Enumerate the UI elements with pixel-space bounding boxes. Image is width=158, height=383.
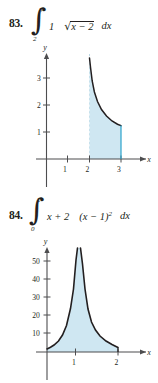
exercise-83-statement: 83. ∫ 3 2 1 √ x − 2 dx <box>0 0 158 46</box>
integral-upper-limit: 2 <box>37 196 41 204</box>
differential-dx: dx <box>102 20 112 31</box>
differential-dx: dx <box>120 210 130 221</box>
integrand-fraction: x + 2 (x − 1)2 <box>44 206 115 224</box>
y-tick-label-20: 20 <box>32 311 40 320</box>
y-axis-label-83: y <box>42 44 47 52</box>
integral-sign-icon: ∫ 2 0 <box>29 198 42 232</box>
exercise-84-integral-expression: ∫ 2 0 x + 2 (x − 1)2 dx <box>29 198 130 232</box>
y-axis-label-84: y <box>43 237 48 246</box>
integrand-fraction: 1 √ x − 2 <box>46 16 97 34</box>
x-axis-arrow-84 <box>140 349 146 354</box>
y-axis-arrow-84 <box>44 247 49 253</box>
graph-84-svg: 1 2 10 20 30 40 50 x y <box>0 234 158 383</box>
radicand: x − 2 <box>71 21 93 32</box>
fraction-numerator: x + 2 <box>44 211 72 222</box>
y-tick-label-1: 1 <box>37 128 41 137</box>
exercise-83: 83. ∫ 3 2 1 √ x − 2 dx <box>0 0 158 192</box>
square-root-expression: √ x − 2 <box>64 20 93 33</box>
exercise-84: 84. ∫ 2 0 x + 2 (x − 1)2 dx <box>0 192 158 383</box>
y-tick-label-3: 3 <box>37 74 41 83</box>
exercise-83-graph: 1 2 3 1 2 3 x y <box>0 44 158 192</box>
exercise-84-statement: 84. ∫ 2 0 x + 2 (x − 1)2 dx <box>0 192 158 238</box>
y-tick-label-30: 30 <box>32 293 40 302</box>
fraction-denominator: √ x − 2 <box>61 21 96 32</box>
x-tick-label-2: 2 <box>115 358 119 367</box>
y-tick-label-50: 50 <box>32 257 40 266</box>
x-tick-label-2: 2 <box>86 165 90 174</box>
x-tick-label-1: 1 <box>72 358 76 367</box>
fraction-numerator: 1 <box>46 21 57 32</box>
denominator-exponent: 2 <box>109 210 113 218</box>
y-axis-arrow-83 <box>44 53 49 59</box>
y-tick-label-40: 40 <box>32 275 40 284</box>
exercise-84-graph: 1 2 10 20 30 40 50 x y <box>0 234 158 383</box>
fraction-denominator: (x − 1)2 <box>76 211 115 222</box>
radical-vinculum <box>70 21 93 22</box>
integral-upper-limit: 3 <box>39 6 43 14</box>
x-axis-label-83: x <box>146 155 151 164</box>
y-tick-label-10: 10 <box>32 329 40 338</box>
exercise-83-number: 83. <box>9 17 23 29</box>
integral-lower-limit: 2 <box>33 35 37 43</box>
exercise-83-integral-expression: ∫ 3 2 1 √ x − 2 dx <box>31 8 111 42</box>
integral-sign-icon: ∫ 3 2 <box>31 8 44 42</box>
exercise-84-number: 84. <box>9 209 23 221</box>
y-tick-label-2: 2 <box>37 101 41 110</box>
graph-83-svg: 1 2 3 1 2 3 x y <box>0 44 158 192</box>
x-tick-label-1: 1 <box>63 165 67 174</box>
integral-lower-limit: 0 <box>31 225 35 233</box>
x-tick-label-3: 3 <box>117 165 121 174</box>
x-axis-label-84: x <box>146 348 151 357</box>
x-axis-arrow-83 <box>140 156 146 161</box>
denominator-base: (x − 1) <box>79 211 108 222</box>
shaded-region-83 <box>90 58 122 159</box>
